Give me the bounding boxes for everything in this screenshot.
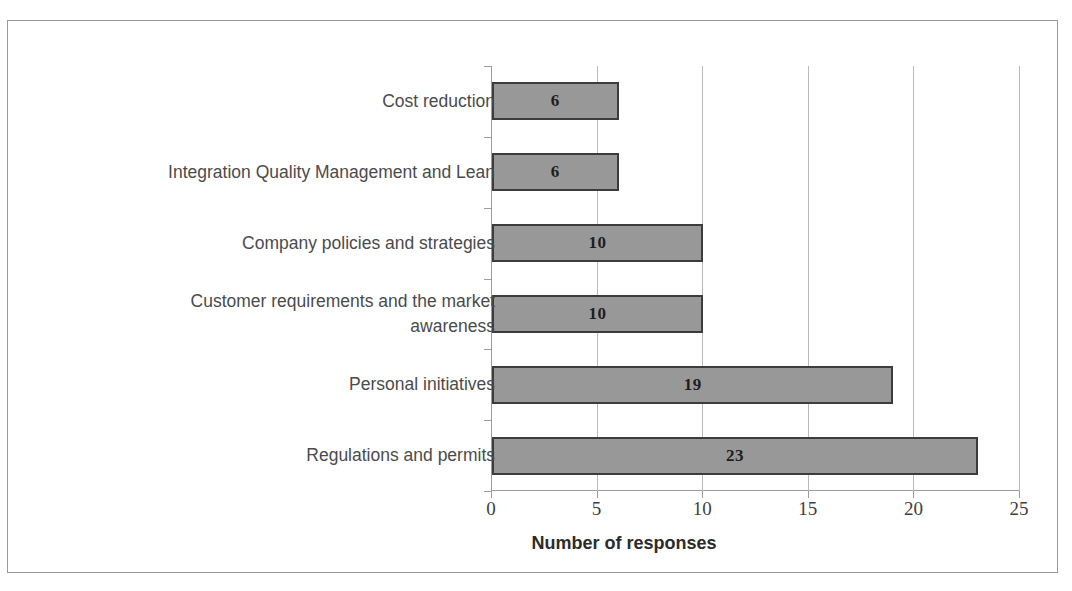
x-tick-mark: [491, 491, 492, 498]
bar-value-label: 10: [494, 233, 701, 253]
x-tick-label: 5: [567, 498, 627, 520]
x-tick-label: 10: [672, 498, 732, 520]
y-tick-mark: [484, 349, 491, 350]
bar-value-label: 19: [494, 375, 891, 395]
x-axis-line: [491, 490, 1019, 491]
y-tick-mark: [484, 66, 491, 67]
x-tick-label: 25: [989, 498, 1049, 520]
y-tick-mark: [484, 420, 491, 421]
gridline: [1019, 66, 1020, 491]
category-label-line: Customer requirements and the market: [25, 289, 495, 314]
bar-value-label: 23: [494, 446, 976, 466]
category-label-line: Regulations and permits: [25, 443, 495, 468]
x-tick-mark: [1019, 491, 1020, 498]
clipped-title-fragment: I: [0, 0, 1072, 18]
bar-value-label: 6: [494, 91, 617, 111]
bar: 10: [492, 224, 703, 262]
y-tick-mark: [484, 279, 491, 280]
y-tick-mark: [484, 137, 491, 138]
bar: 23: [492, 437, 978, 475]
gridline: [597, 66, 598, 491]
category-label: Integration Quality Management and Lean: [25, 160, 495, 185]
x-tick-label: 0: [461, 498, 521, 520]
category-label: Customer requirements and the marketawar…: [25, 289, 495, 339]
x-tick-mark: [808, 491, 809, 498]
category-label-line: Personal initiatives: [25, 372, 495, 397]
bar: 19: [492, 366, 893, 404]
x-tick-mark: [702, 491, 703, 498]
category-label: Personal initiatives: [25, 372, 495, 397]
x-tick-label: 15: [778, 498, 838, 520]
x-tick-mark: [597, 491, 598, 498]
y-axis-line: [491, 66, 492, 491]
category-label-line: Company policies and strategies: [25, 231, 495, 256]
x-tick-mark: [913, 491, 914, 498]
category-label: Cost reduction: [25, 89, 495, 114]
x-axis-title: Number of responses: [8, 533, 1072, 554]
gridline: [702, 66, 703, 491]
category-label: Company policies and strategies: [25, 231, 495, 256]
category-label-line: Cost reduction: [25, 89, 495, 114]
plot-area: 6610101923: [491, 66, 1019, 491]
bar: 6: [492, 82, 619, 120]
bar-value-label: 6: [494, 162, 617, 182]
bar: 6: [492, 153, 619, 191]
y-tick-mark: [484, 208, 491, 209]
category-label-line: Integration Quality Management and Lean: [25, 160, 495, 185]
category-label-line: awareness: [25, 314, 495, 339]
bar: 10: [492, 295, 703, 333]
x-tick-label: 20: [883, 498, 943, 520]
category-label: Regulations and permits: [25, 443, 495, 468]
y-tick-mark: [484, 491, 491, 492]
chart-frame: 6610101923 Number of responses 051015202…: [7, 20, 1058, 573]
gridline: [808, 66, 809, 491]
bar-value-label: 10: [494, 304, 701, 324]
gridline: [913, 66, 914, 491]
